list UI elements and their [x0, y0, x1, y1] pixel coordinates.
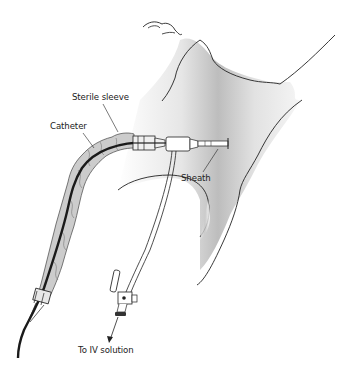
- patient-neck: [118, 22, 335, 285]
- label-sterile-sleeve: Sterile sleeve: [72, 92, 129, 102]
- catheter-diagram: [0, 0, 353, 373]
- iv-arrow: [107, 317, 118, 343]
- label-sheath: Sheath: [181, 173, 211, 183]
- label-iv-solution: To IV solution: [78, 345, 134, 355]
- label-catheter: Catheter: [50, 121, 87, 131]
